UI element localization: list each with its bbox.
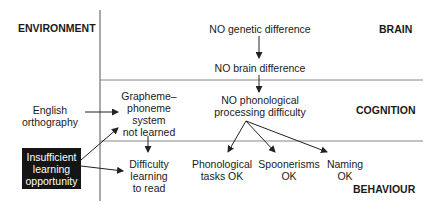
- node-naming-line2: OK: [320, 170, 370, 182]
- node-english-orthography: English orthography: [14, 104, 86, 128]
- node-no-phonological-line1: NO phonological: [200, 94, 320, 106]
- node-english-line2: orthography: [14, 116, 86, 128]
- header-environment: ENVIRONMENT: [18, 22, 96, 34]
- node-difficulty-line2: learning: [118, 170, 180, 182]
- node-no-brain-difference: NO brain difference: [205, 62, 315, 74]
- node-difficulty-learning-to-read: Difficulty learning to read: [118, 158, 180, 194]
- node-insufficient-learning-opportunity: Insufficient learning opportunity: [22, 148, 81, 189]
- arrow-phon-to-spoonerisms: [246, 121, 275, 152]
- header-brain: BRAIN: [379, 23, 412, 35]
- node-phon-tasks-line1: Phonological: [184, 158, 260, 170]
- node-insufficient-line2: learning: [26, 163, 78, 175]
- header-cognition: COGNITION: [356, 104, 416, 116]
- node-gp-line1: Grapheme–: [118, 90, 180, 102]
- node-insufficient-line3: opportunity: [26, 175, 78, 187]
- node-difficulty-line1: Difficulty: [118, 158, 180, 170]
- node-phonological-tasks-ok: Phonological tasks OK: [184, 158, 260, 182]
- node-spoon-line1: Spoonerisms: [254, 158, 324, 170]
- node-phon-tasks-line2: tasks OK: [184, 170, 260, 182]
- arrow-insufficient-to-difficulty: [81, 166, 123, 171]
- arrow-phon-to-naming: [246, 121, 327, 152]
- node-naming-ok: Naming OK: [320, 158, 370, 182]
- header-behaviour: BEHAVIOUR: [353, 183, 415, 195]
- node-no-phonological-difficulty: NO phonological processing difficulty: [200, 94, 320, 118]
- node-spoonerisms-ok: Spoonerisms OK: [254, 158, 324, 182]
- node-english-line1: English: [14, 104, 86, 116]
- node-grapheme-phoneme: Grapheme– phoneme system not learned: [118, 90, 180, 138]
- arrow-phon-to-tasks: [228, 121, 246, 152]
- node-insufficient-line1: Insufficient: [26, 151, 78, 163]
- node-gp-line2: phoneme: [118, 102, 180, 114]
- node-difficulty-line3: to read: [118, 182, 180, 194]
- node-no-phonological-line2: processing difficulty: [200, 106, 320, 118]
- node-naming-line1: Naming: [320, 158, 370, 170]
- node-gp-line3: system: [118, 114, 180, 126]
- node-gp-line4: not learned: [118, 126, 180, 138]
- node-no-genetic-difference: NO genetic difference: [200, 23, 320, 35]
- node-spoon-line2: OK: [254, 170, 324, 182]
